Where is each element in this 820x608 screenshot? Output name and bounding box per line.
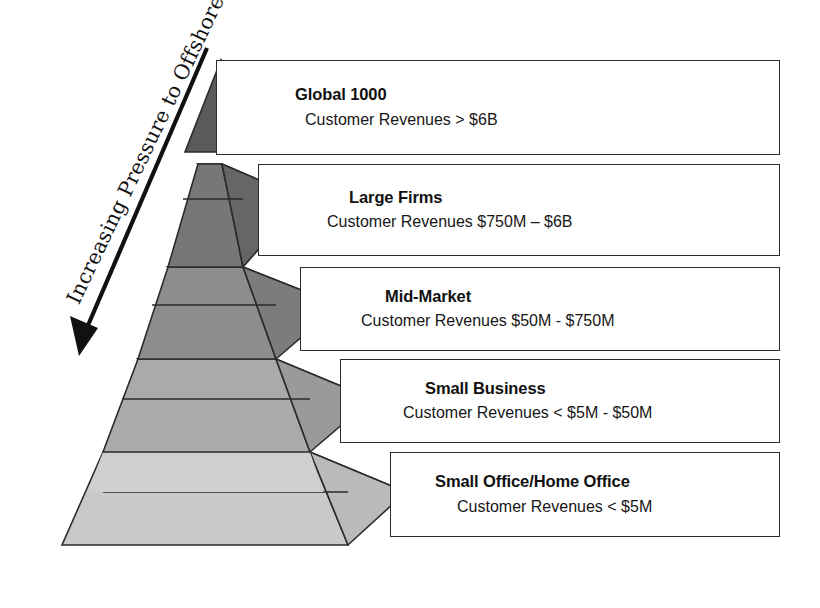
tier-4-front-face	[103, 359, 310, 452]
segment-callout-soho[interactable]: Small Office/Home Office Customer Revenu…	[390, 452, 780, 537]
segment-subtitle: Customer Revenues < $5M	[457, 497, 779, 518]
segment-title: Large Firms	[349, 187, 779, 208]
segment-title: Small Business	[425, 378, 779, 399]
segment-callout-global-1000[interactable]: Global 1000 Customer Revenues > $6B	[216, 60, 780, 155]
segment-callout-mid-market[interactable]: Mid-Market Customer Revenues $50M - $750…	[300, 267, 780, 351]
diagram-canvas: Increasing Pressure to Offshore Global 1…	[0, 0, 820, 608]
segment-callout-large-firms[interactable]: Large Firms Customer Revenues $750M – $6…	[258, 164, 780, 256]
segment-subtitle: Customer Revenues $50M - $750M	[361, 311, 779, 332]
pyramid-tier-5	[62, 452, 406, 545]
pyramid-tier-4	[103, 359, 372, 452]
segment-subtitle: Customer Revenues < $5M - $50M	[403, 403, 779, 424]
tier-5-upper-band	[88, 452, 323, 492]
segment-callout-small-business[interactable]: Small Business Customer Revenues < $5M -…	[340, 359, 780, 443]
segment-title: Small Office/Home Office	[435, 471, 779, 492]
pressure-arrow-head	[70, 316, 98, 356]
segment-subtitle: Customer Revenues > $6B	[305, 110, 779, 131]
segment-title: Global 1000	[295, 84, 779, 105]
segment-title: Mid-Market	[385, 286, 779, 307]
segment-subtitle: Customer Revenues $750M – $6B	[327, 212, 779, 233]
